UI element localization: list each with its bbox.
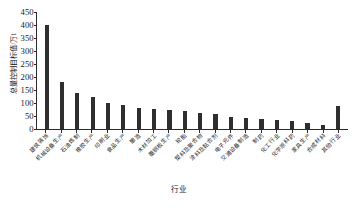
bar: [198, 113, 202, 129]
y-axis-title: 总量控制目标值/万t: [11, 5, 18, 123]
x-axis-labels: 建筑装饰机械设备生产石油炼制橡胶生产印刷业食品生产酿造木材加工覆铜板生产轮胎塑料…: [36, 133, 348, 179]
bar-slot: [100, 12, 115, 129]
bar: [229, 117, 233, 129]
bar-slot: [177, 12, 192, 129]
bar-series: [37, 12, 348, 129]
bar-slot: [223, 12, 238, 129]
x-axis-title: 行业: [0, 186, 357, 194]
x-label-slot: 化学原料药: [285, 133, 300, 179]
bar: [213, 114, 217, 129]
bar: [183, 111, 187, 129]
bar: [121, 105, 125, 129]
bar: [259, 119, 263, 129]
bar: [152, 109, 156, 129]
bar-slot: [70, 12, 85, 129]
bar: [60, 82, 64, 129]
bar-slot: [208, 12, 223, 129]
x-label-slot: 机械设备生产: [53, 133, 68, 179]
bar-slot: [331, 12, 346, 129]
bar-slot: [315, 12, 330, 129]
bar: [75, 93, 79, 129]
bar-slot: [85, 12, 100, 129]
bar: [45, 25, 49, 129]
bar-slot: [162, 12, 177, 129]
x-label-slot: 其他行业: [331, 133, 346, 179]
bar-slot: [269, 12, 284, 129]
bar-slot: [116, 12, 131, 129]
bar: [137, 108, 141, 129]
bar-slot: [192, 12, 207, 129]
bar: [275, 120, 279, 129]
bar-slot: [54, 12, 69, 129]
bar: [244, 118, 248, 129]
bar-slot: [254, 12, 269, 129]
bar: [336, 106, 340, 129]
bar: [91, 97, 95, 130]
bar: [167, 110, 171, 129]
bar: [321, 125, 325, 129]
bar: [305, 123, 309, 129]
bar: [106, 103, 110, 129]
plot-area: 450400350300250200150100500: [36, 12, 348, 130]
bar-slot: [300, 12, 315, 129]
bar-slot: [285, 12, 300, 129]
bar-chart: 总量控制目标值/万t 450400350300250200150100500 建…: [0, 0, 357, 213]
bar: [290, 121, 294, 129]
bar-slot: [238, 12, 253, 129]
bar-slot: [39, 12, 54, 129]
bar-slot: [146, 12, 161, 129]
x-label-slot: 酿造: [130, 133, 145, 179]
bar-slot: [131, 12, 146, 129]
